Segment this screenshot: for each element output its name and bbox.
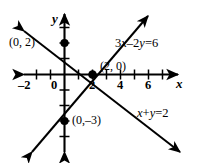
x-tick-label-0: 0 [51,79,57,92]
y-axis-label: y [52,12,58,25]
x-tick-label-6: 6 [145,79,151,92]
point-0-minus-3 [60,117,68,125]
coordinate-graph: –2 0 2 4 6 x y (0, 2) (2, 0) (0,–3) 3x–2… [0,0,197,163]
x-tick-label-4: 4 [117,79,123,92]
point-0-2 [60,39,68,47]
equation-label-3x-2y-6: 3x–2y=6 [115,37,158,50]
x-axis-label: x [176,77,183,90]
x-tick-label-neg2: –2 [18,79,31,92]
point-label-2-0: (2, 0) [100,60,126,72]
point-label-0-minus-3: (0,–3) [72,114,101,126]
equation-label-x-y-2: x+y=2 [137,107,169,120]
point-label-0-2: (0, 2) [9,36,35,48]
x-tick-label-2: 2 [89,79,95,92]
